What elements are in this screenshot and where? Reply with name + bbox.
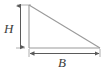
triangle-diagram: H B xyxy=(0,0,106,72)
base-label: B xyxy=(58,56,66,69)
height-label: H xyxy=(4,22,13,35)
triangle-outline xyxy=(29,5,100,48)
triangle-hypotenuse xyxy=(29,5,100,48)
diagram-canvas xyxy=(0,0,106,72)
